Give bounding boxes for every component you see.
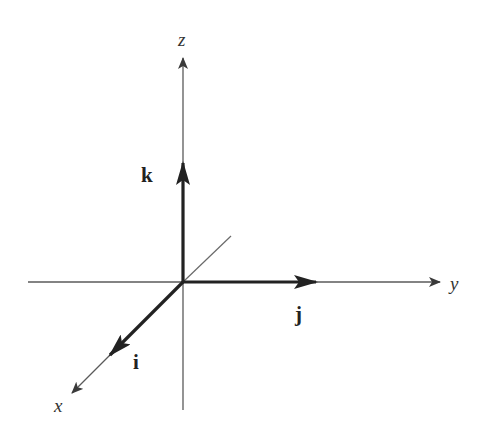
x-axis-label: x: [53, 395, 63, 416]
z-axis-label: z: [177, 29, 186, 50]
coordinate-diagram: z y x k j i: [0, 0, 480, 438]
y-axis-label: y: [448, 273, 459, 294]
vector-i-label: i: [133, 350, 139, 374]
vector-i-arrow: [110, 282, 183, 355]
x-axis-back-segment: [183, 236, 231, 282]
vector-k-label: k: [141, 163, 153, 187]
vector-j-label: j: [294, 302, 302, 326]
